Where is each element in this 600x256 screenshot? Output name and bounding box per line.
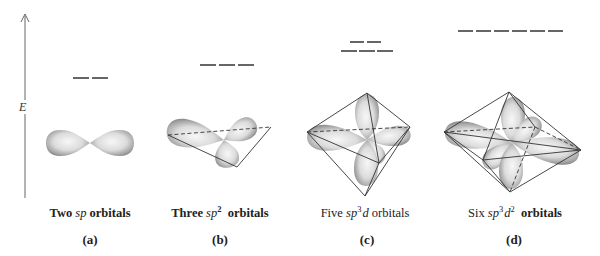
sp3d-orbitals-shape (306, 93, 412, 196)
energy-axis-label: E (19, 100, 26, 114)
panel-label-c: (c) (347, 232, 387, 248)
caption-prefix: Six (468, 206, 488, 220)
panel-label-b: (b) (200, 232, 240, 248)
caption-suffix: orbitals (515, 206, 562, 220)
caption-sp3d2: Six sp3 d2 orbitals (460, 206, 570, 221)
caption-sp3d: Five sp3 d orbitals (310, 206, 420, 221)
caption-suffix: orbitals (369, 206, 410, 220)
caption-hybrid: sp (75, 206, 86, 220)
caption-prefix: Five (321, 206, 346, 220)
caption-superscript: 3 (499, 204, 503, 214)
sp3d2-orbitals-shape (443, 92, 581, 192)
caption-suffix: orbitals (86, 206, 130, 220)
caption-hybrid: sp (346, 206, 357, 220)
sp2-orbitals-shape (164, 113, 271, 169)
sp-orbitals-shape (46, 130, 134, 156)
caption-sp: Two sp orbitals (40, 206, 140, 221)
caption-superscript: 3 (357, 204, 361, 214)
energy-levels (73, 31, 563, 78)
panel-label-a: (a) (70, 232, 110, 248)
caption-suffix: orbitals (221, 206, 268, 220)
caption-prefix: Three (171, 206, 206, 220)
caption-sp2: Three sp2 orbitals (170, 206, 270, 221)
caption-prefix: Two (49, 206, 75, 220)
panel-label-d: (d) (494, 232, 534, 248)
caption-hybrid: sp (206, 206, 217, 220)
caption-hybrid: sp (488, 206, 499, 220)
energy-levels-sp3d (341, 42, 393, 51)
